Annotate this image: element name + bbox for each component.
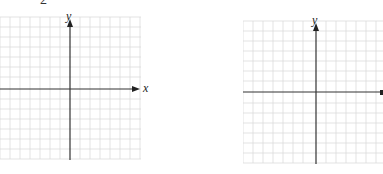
grid-left (0, 16, 150, 162)
problem-number: 2 (40, 0, 47, 8)
coordinate-plane-right: y (243, 20, 383, 166)
x-arrow-icon (132, 86, 140, 92)
y-axis-label-left: y (66, 9, 71, 24)
grid-right (243, 20, 383, 166)
x-axis-label-left: x (143, 81, 148, 96)
y-axis-label-right: y (312, 13, 317, 28)
coordinate-plane-left: y x (0, 16, 150, 162)
